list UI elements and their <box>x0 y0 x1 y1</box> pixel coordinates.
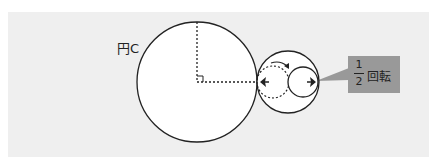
callout-pointer <box>316 68 349 81</box>
fraction-numerator: 1 <box>354 58 364 72</box>
fraction-bar <box>354 73 364 74</box>
circle-c-label: 円C <box>117 38 139 57</box>
fraction-denominator: 2 <box>354 75 364 89</box>
rotation-callout: 1 2 回転 <box>348 56 400 93</box>
fraction: 1 2 <box>354 58 364 89</box>
rotation-text: 回転 <box>367 67 391 84</box>
